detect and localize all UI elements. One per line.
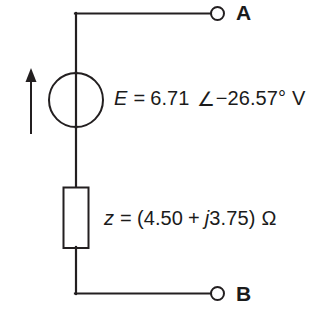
source-equals-sign: = xyxy=(133,87,145,109)
source-unit: V xyxy=(292,87,305,109)
impedance-quantity-symbol: z xyxy=(104,207,114,229)
terminal-b-node[interactable] xyxy=(211,287,224,300)
source-equation-label: E=6.71∠−26.57°V xyxy=(114,88,306,108)
circuit-diagram-canvas: A B E=6.71∠−26.57°V z=(4.50+j3.75)Ω xyxy=(0,0,318,327)
polarity-arrow-head xyxy=(26,68,37,82)
schematic-svg xyxy=(0,0,318,327)
impedance-open-paren: ( xyxy=(137,207,144,229)
impedance-real-value: 4.50 xyxy=(144,207,183,229)
impedance-close-paren: ) xyxy=(249,207,256,229)
terminal-a-node[interactable] xyxy=(211,7,224,20)
impedance-plus-sign: + xyxy=(188,207,200,229)
impedance-equals-sign: = xyxy=(120,207,132,229)
source-magnitude-value: 6.71 xyxy=(150,87,189,109)
angle-icon: ∠ xyxy=(196,89,216,109)
impedance-imag-value: 3.75 xyxy=(209,207,248,229)
terminal-a-label: A xyxy=(236,2,251,23)
impedance-equation-label: z=(4.50+j3.75)Ω xyxy=(104,208,276,228)
impedance-unit: Ω xyxy=(261,207,276,229)
source-quantity-symbol: E xyxy=(114,87,127,109)
impedance-box xyxy=(64,188,89,249)
source-phase-value: −26.57° xyxy=(216,87,286,109)
terminal-b-label: B xyxy=(236,283,251,304)
